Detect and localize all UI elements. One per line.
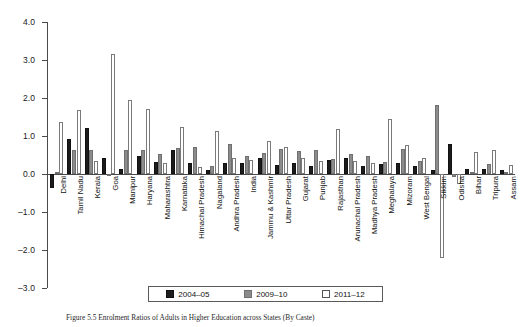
bar-group (359, 22, 376, 288)
y-tick-label: –3.0 (18, 283, 35, 293)
y-tick-mark: 1.0 (42, 136, 47, 137)
bar (141, 150, 145, 174)
bar-group (394, 22, 411, 288)
bar (232, 158, 236, 174)
y-tick-mark: 2.0 (42, 98, 47, 99)
y-tick-label: 1.0 (23, 131, 35, 141)
x-axis-label: Tamil Nadu (76, 176, 85, 214)
y-tick-mark: 3.0 (42, 60, 47, 61)
bar (383, 162, 387, 174)
bar-group (186, 22, 203, 288)
bar (275, 165, 279, 174)
bar (102, 158, 106, 174)
bar (474, 152, 478, 174)
bar (262, 153, 266, 174)
bar (314, 150, 318, 174)
bar (309, 166, 313, 174)
bar (249, 160, 253, 174)
bar (396, 163, 400, 174)
bar (344, 158, 348, 174)
bar (301, 158, 305, 174)
bar (223, 163, 227, 174)
bar (267, 141, 271, 174)
bar (435, 105, 439, 174)
bar (504, 172, 508, 174)
x-axis-label: Jammu & Kashmir (266, 176, 275, 239)
bar (401, 149, 405, 174)
bar-group (238, 22, 255, 288)
x-axis-label: Kerala (93, 176, 102, 198)
bar (487, 164, 491, 174)
bar (137, 156, 141, 174)
x-axis-label: Nagaland (215, 176, 224, 209)
figure-container: 4.03.02.01.00.0–1.0–2.0–3.0 DelhiTamil N… (0, 0, 530, 327)
bar (388, 119, 392, 174)
bar (331, 159, 335, 174)
y-tick-label: 4.0 (23, 17, 35, 27)
bar (158, 154, 162, 174)
bar (361, 166, 365, 174)
bar (77, 110, 81, 174)
bar (422, 158, 426, 174)
bar (193, 147, 197, 174)
x-axis-label: Bihar (474, 176, 483, 194)
bar-group (256, 22, 273, 288)
chart-legend: 2004–05 2009–10 2011–12 (148, 286, 383, 302)
legend-swatch-icon-2011-12 (322, 290, 330, 298)
bar-group (273, 22, 290, 288)
bar (119, 169, 123, 174)
bar (85, 128, 89, 174)
figure-caption: Figure 5.5 Enrolment Ratios of Adults in… (66, 313, 518, 326)
x-axis-label: Arunachal Pradesh (353, 176, 362, 241)
bar-group (117, 22, 134, 288)
bar (284, 147, 288, 174)
bar (215, 131, 219, 174)
legend-label-2009-10: 2009–10 (256, 290, 287, 299)
bar (349, 154, 353, 174)
bar (180, 127, 184, 174)
y-tick-mark: –2.0 (42, 250, 47, 251)
legend-label-2004-05: 2004–05 (178, 290, 209, 299)
bar (353, 161, 357, 174)
bar (258, 158, 262, 174)
legend-item-2011-12: 2011–12 (322, 290, 365, 299)
bar-group (100, 22, 117, 288)
legend-item-2009-10: 2009–10 (244, 290, 287, 299)
x-axis-label: Odisha (457, 176, 466, 200)
bar-group (480, 22, 497, 288)
legend-swatch-icon-2009-10 (244, 290, 252, 298)
y-tick-mark: –1.0 (42, 212, 47, 213)
x-axis-label: Karnataka (180, 176, 189, 211)
bar-group (221, 22, 238, 288)
x-axis-label: Sikkim (439, 176, 448, 199)
bar-group (134, 22, 151, 288)
x-axis-label: Goa (111, 176, 120, 191)
x-axis-label: Assam (509, 176, 518, 199)
bar (245, 156, 249, 174)
bar-group (463, 22, 480, 288)
bar-group (429, 22, 446, 288)
x-axis-label: Manipur (128, 176, 137, 204)
bar (470, 172, 474, 174)
x-axis-label: Haryana (145, 176, 154, 205)
x-axis-label: India (249, 176, 258, 193)
bar (210, 166, 214, 174)
bar (59, 122, 63, 174)
y-tick-label: –1.0 (18, 207, 35, 217)
bar-group (48, 22, 65, 288)
bar-group (342, 22, 359, 288)
bar (50, 174, 54, 188)
bar-group (152, 22, 169, 288)
bar-group (498, 22, 515, 288)
y-tick-label: 0.0 (23, 169, 35, 179)
legend-item-2004-05: 2004–05 (166, 290, 209, 299)
bar (198, 167, 202, 174)
bar (55, 172, 59, 174)
bar (492, 150, 496, 174)
y-tick-label: 3.0 (23, 55, 35, 65)
bar-group (411, 22, 428, 288)
bar (366, 156, 370, 174)
bar (89, 150, 93, 174)
bar (297, 151, 301, 174)
y-tick-label: 2.0 (23, 93, 35, 103)
